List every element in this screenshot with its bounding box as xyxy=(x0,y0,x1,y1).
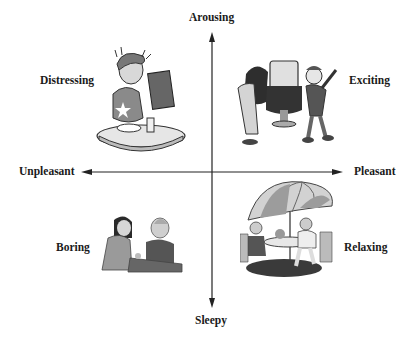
boring-illustration xyxy=(98,214,186,278)
quadrant-label-distressing: Distressing xyxy=(40,74,94,86)
axis-label-unpleasant: Unpleasant xyxy=(19,165,75,177)
arrow-down-icon xyxy=(209,298,215,308)
axis-label-pleasant: Pleasant xyxy=(354,165,396,177)
quadrant-label-boring: Boring xyxy=(56,241,90,253)
arrow-right-icon xyxy=(332,169,343,175)
axis-label-sleepy: Sleepy xyxy=(195,314,227,326)
quadrant-label-exciting: Exciting xyxy=(349,74,390,86)
exciting-illustration xyxy=(236,58,346,148)
distressing-illustration xyxy=(95,42,187,152)
quadrant-label-relaxing: Relaxing xyxy=(344,241,387,253)
arrow-left-icon xyxy=(81,169,92,175)
relaxing-illustration xyxy=(240,178,340,280)
axis-label-arousing: Arousing xyxy=(189,11,234,23)
arrow-up-icon xyxy=(209,32,215,42)
